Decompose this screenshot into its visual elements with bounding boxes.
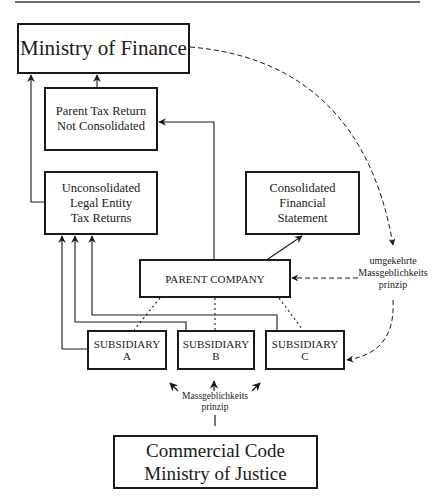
principle-annotation: Massgeblichkeits prinzip (170, 391, 260, 413)
subsidiary-b-box: SUBSIDIARY B (177, 330, 255, 370)
consolidated-statement-label: Consolidated Financial Statement (247, 181, 358, 226)
edge-parent-company-to-consolidated (268, 236, 302, 259)
subsidiary-a-label: SUBSIDIARY A (89, 338, 165, 362)
ministry-of-finance-box: Ministry of Finance (17, 23, 190, 74)
ownership-line-a (134, 298, 160, 330)
unconsolidated-returns-label: Unconsolidated Legal Entity Tax Returns (62, 181, 140, 226)
edge-reverse-principle-to-sub-c (347, 300, 393, 360)
connector-layer (0, 0, 438, 504)
subsidiary-c-box: SUBSIDIARY C (265, 330, 345, 370)
edge-unconsolidated-to-ministry (31, 75, 44, 202)
commercial-code-box: Commercial Code Ministry of Justice (113, 435, 318, 489)
reverse-principle-annotation: umgekehrte Massgeblichkeits prinzip (352, 255, 434, 291)
subsidiary-a-box: SUBSIDIARY A (87, 330, 167, 370)
parent-tax-return-box: Parent Tax Return Not Consolidated (44, 87, 158, 151)
edge-code-to-sub-a (170, 383, 178, 391)
subsidiary-b-label: SUBSIDIARY B (179, 338, 253, 362)
parent-company-box: PARENT COMPANY (139, 259, 291, 298)
ownership-line-c (279, 298, 303, 330)
subsidiary-c-label: SUBSIDIARY C (267, 338, 343, 362)
commercial-code-label: Commercial Code Ministry of Justice (144, 439, 287, 485)
unconsolidated-returns-box: Unconsolidated Legal Entity Tax Returns (44, 171, 158, 235)
ministry-of-finance-label: Ministry of Finance (20, 35, 187, 62)
consolidated-statement-box: Consolidated Financial Statement (245, 171, 360, 235)
edge-code-to-sub-c (252, 383, 260, 391)
parent-tax-return-label: Parent Tax Return Not Consolidated (56, 104, 147, 134)
parent-company-label: PARENT COMPANY (165, 273, 265, 285)
edge-parent-company-to-parent-return (159, 122, 214, 259)
